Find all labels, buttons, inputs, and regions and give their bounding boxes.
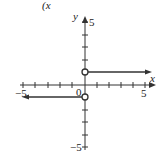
y-axis-label: y [72,10,78,22]
origin-label: 0 [76,86,82,98]
y-min-label: −5 [70,141,82,153]
step-function-graph: (x y 5 −5 x −5 5 0 [0,0,168,154]
y-max-label: 5 [89,16,95,28]
x-axis-label: x [149,72,155,84]
header-fragment: (x [42,0,51,12]
open-circle-upper [82,69,88,75]
open-circle-lower [82,94,88,100]
x-max-label: 5 [141,87,147,99]
